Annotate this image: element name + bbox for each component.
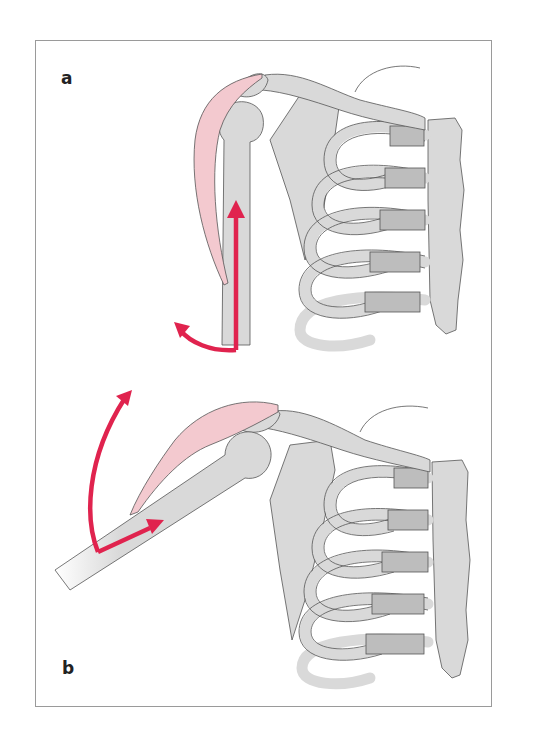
- anatomy-illustration: [0, 0, 550, 756]
